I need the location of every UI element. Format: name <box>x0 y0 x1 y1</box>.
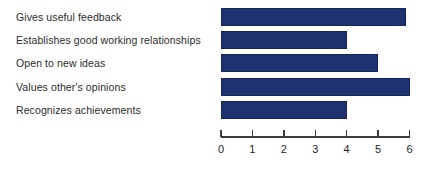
bar <box>221 8 406 26</box>
axis-tick-label: 6 <box>400 143 420 155</box>
axis-tick-label: 3 <box>305 143 325 155</box>
axis-tick-label: 4 <box>337 143 357 155</box>
axis-line <box>221 136 410 138</box>
axis-tick-label: 5 <box>368 143 388 155</box>
axis-tick-label: 2 <box>274 143 294 155</box>
bar <box>221 54 378 72</box>
plot-area <box>0 0 422 132</box>
axis-tick-label: 1 <box>242 143 262 155</box>
horizontal-bar-chart: Gives useful feedbackEstablishes good wo… <box>0 0 422 176</box>
bar <box>221 78 410 96</box>
bar <box>221 101 347 119</box>
axis-tick-label: 0 <box>211 143 231 155</box>
bar <box>221 31 347 49</box>
